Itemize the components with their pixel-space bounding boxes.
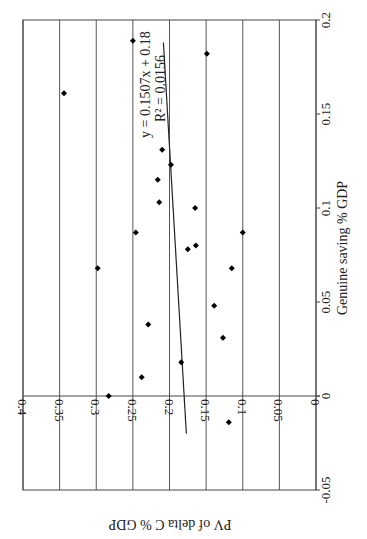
y-tick-label: 0.4 (15, 399, 30, 416)
x-tick-label: 0.1 (318, 200, 333, 216)
y-tick-label: 0.15 (198, 399, 213, 422)
data-point (130, 38, 136, 44)
data-point (139, 374, 145, 380)
data-point (156, 199, 162, 205)
data-point (226, 419, 232, 425)
x-axis-label: Genuine saving % GDP (335, 181, 350, 315)
data-point (133, 229, 139, 235)
data-point (145, 322, 151, 328)
data-point (178, 359, 184, 365)
data-point (106, 393, 112, 399)
y-tick-label: 0.2 (162, 399, 177, 415)
scatter-chart: 00.050.10.150.20.250.30.350.4 -0.0500.05… (0, 0, 367, 539)
data-point (229, 265, 235, 271)
y-tick-label: 0.35 (52, 399, 67, 422)
y-tick-label: 0.1 (235, 399, 250, 415)
y-tick-label: 0.05 (271, 399, 286, 422)
data-point (159, 147, 165, 153)
data-point (204, 51, 210, 57)
data-point (61, 90, 67, 96)
data-point (155, 177, 161, 183)
data-point (192, 205, 198, 211)
data-point (193, 243, 199, 249)
x-tick-labels: -0.0500.050.10.150.2 (316, 12, 333, 504)
data-point (240, 229, 246, 235)
data-point (185, 246, 191, 252)
data-point (168, 162, 174, 168)
x-tick-label: -0.05 (318, 476, 333, 503)
x-tick-label: 0.05 (318, 291, 333, 314)
data-point (220, 335, 226, 341)
y-axis-label: PV of delta C % GDP (108, 517, 231, 532)
y-tick-label: 0.25 (125, 399, 140, 422)
x-tick-label: 0.15 (318, 103, 333, 126)
data-point (95, 265, 101, 271)
x-tick-label: 0.2 (318, 12, 333, 28)
trendline-equation: y = 0.1507x + 0.18 (138, 31, 153, 138)
data-point (211, 303, 217, 309)
y-tick-label: 0.3 (88, 399, 103, 415)
trendline-r2: R² = 0.0156 (153, 55, 168, 122)
x-tick-label: 0 (318, 393, 333, 400)
